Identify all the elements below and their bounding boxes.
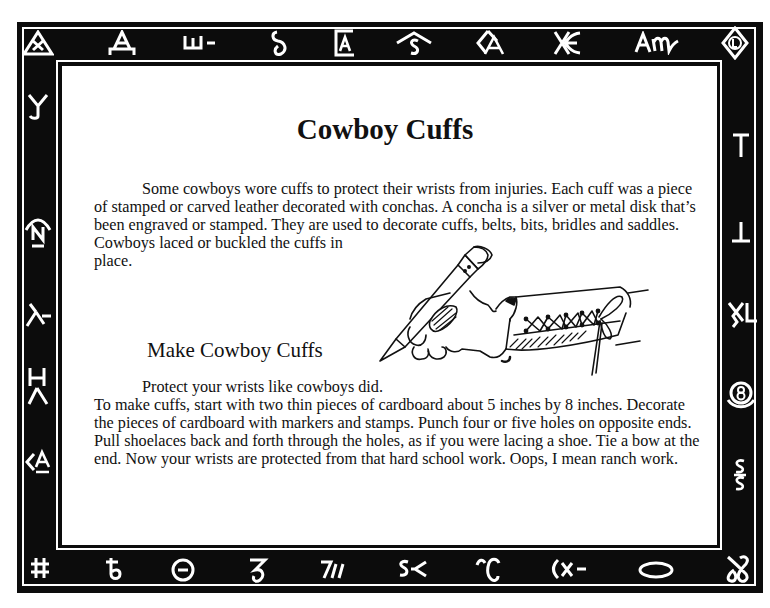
activity-line-4: end. Now your wrists are protected from … [94, 450, 678, 468]
brand-7-slashes-icon [313, 559, 357, 581]
brand-x-e-icon [546, 30, 590, 56]
page-title: Cowboy Cuffs [0, 113, 770, 146]
brand-s-arrow-icon [391, 558, 435, 580]
brand-rocking-c-icon [466, 555, 510, 583]
intro-line-3: been engraved or stamped. They are used … [94, 216, 679, 234]
intro-line-5: place. [94, 252, 132, 270]
brand-n-rafter-icon [16, 218, 60, 252]
brand-xl-icon [721, 300, 765, 330]
brand-diamond-l-icon [713, 26, 757, 60]
intro-line-2: of stamped or carved leather decorated w… [94, 198, 696, 216]
brand-hash-icon [18, 556, 62, 580]
brand-lazy-o-icon [634, 560, 678, 580]
intro-line-1: Some cowboys wore cuffs to protect their… [142, 180, 692, 198]
brand-h-y-icon [16, 366, 60, 406]
brand-w-dash-icon [178, 34, 222, 52]
brand-a-m-icon [634, 31, 678, 55]
brand-a-bar-icon [100, 30, 144, 56]
brand-triangle-x-icon [16, 30, 60, 56]
brand-s-bar-s-icon [718, 458, 762, 492]
activity-line-1: To make cuffs, start with two thin piece… [94, 396, 685, 414]
brand-rafter-s-icon [392, 29, 436, 57]
brand-boxed-a-icon [323, 29, 367, 57]
brand-circle-8-icon [719, 380, 763, 410]
brand-lt-a-icon [16, 448, 60, 476]
intro-line-4: Cowboys laced or buckled the cuffs in [94, 234, 343, 252]
brand-inverted-t-icon [719, 220, 763, 244]
activity-lead: Protect your wrists like cowboys did. [142, 378, 383, 396]
cuff-illustration [370, 243, 670, 378]
brand-pretzel-icon [715, 554, 759, 584]
brand-curly-s-icon [258, 30, 302, 56]
activity-line-2: the pieces of cardboard with markers and… [94, 414, 691, 432]
brand-paren-x-dash-icon [548, 558, 592, 580]
activity-paragraph: Protect your wrists like cowboys did. To… [94, 378, 722, 468]
brand-diamond-a-icon [468, 29, 512, 57]
brand-lazy-y-icon [16, 302, 60, 328]
brand-z-curl-icon [236, 556, 280, 584]
activity-heading: Make Cowboy Cuffs [147, 338, 323, 363]
activity-line-3: Pull shoelaces back and forth through th… [94, 432, 700, 450]
brand-t-curl-icon [91, 556, 135, 582]
brand-bar-circle-icon [161, 557, 205, 583]
